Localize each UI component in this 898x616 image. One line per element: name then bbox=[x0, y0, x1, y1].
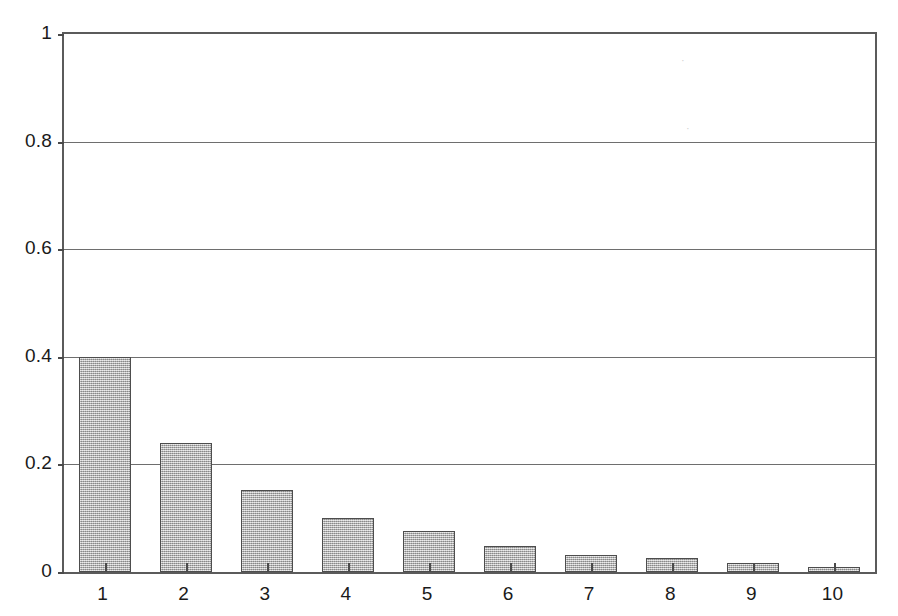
x-tick-2 bbox=[186, 563, 188, 572]
x-axis-label-2: 2 bbox=[154, 584, 214, 603]
x-tick-5 bbox=[429, 563, 431, 572]
x-tick-4 bbox=[348, 563, 350, 572]
y-axis-label-0.4: 0.4 bbox=[0, 346, 52, 365]
x-axis-label-10: 10 bbox=[802, 584, 862, 603]
y-tick-1 bbox=[58, 34, 64, 36]
bar-chart: · · 00.20.40.60.81 12345678910 bbox=[0, 0, 898, 616]
gridline-y-0.8 bbox=[64, 142, 875, 143]
y-tick-0.6 bbox=[58, 249, 64, 251]
x-tick-1 bbox=[105, 563, 107, 572]
x-axis-label-7: 7 bbox=[559, 584, 619, 603]
x-axis-label-4: 4 bbox=[316, 584, 376, 603]
y-axis-label-0.8: 0.8 bbox=[0, 131, 52, 150]
x-axis-label-1: 1 bbox=[73, 584, 133, 603]
y-axis-label-0: 0 bbox=[0, 561, 52, 580]
y-axis-label-0.2: 0.2 bbox=[0, 453, 52, 472]
x-tick-10 bbox=[834, 563, 836, 572]
y-axis-label-0.6: 0.6 bbox=[0, 238, 52, 257]
x-tick-7 bbox=[591, 563, 593, 572]
gridline-y-0.4 bbox=[64, 357, 875, 358]
x-tick-6 bbox=[510, 563, 512, 572]
plot-area: · · bbox=[62, 32, 877, 574]
x-axis-label-5: 5 bbox=[397, 584, 457, 603]
x-axis-label-6: 6 bbox=[478, 584, 538, 603]
y-tick-0.4 bbox=[58, 357, 64, 359]
x-axis-label-9: 9 bbox=[721, 584, 781, 603]
bar-3 bbox=[241, 490, 293, 572]
y-tick-0.2 bbox=[58, 464, 64, 466]
gridline-y-0.6 bbox=[64, 249, 875, 250]
x-axis-label-8: 8 bbox=[640, 584, 700, 603]
x-tick-9 bbox=[753, 563, 755, 572]
x-tick-8 bbox=[672, 563, 674, 572]
bar-2 bbox=[160, 443, 212, 572]
scan-speck-b: · bbox=[686, 122, 690, 134]
y-axis-label-1: 1 bbox=[0, 23, 52, 42]
y-tick-0.8 bbox=[58, 142, 64, 144]
x-axis-label-3: 3 bbox=[235, 584, 295, 603]
scan-speck-a: · bbox=[681, 54, 685, 66]
x-tick-3 bbox=[267, 563, 269, 572]
bar-1 bbox=[79, 357, 131, 572]
y-tick-0 bbox=[58, 572, 64, 574]
